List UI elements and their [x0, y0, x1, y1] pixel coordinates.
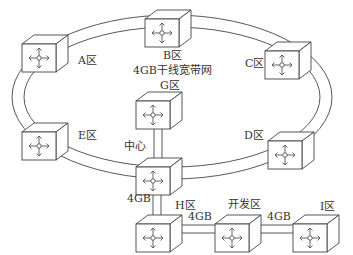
label-g: G区: [160, 80, 180, 92]
router-e-icon: [22, 123, 68, 160]
router-b-icon: [145, 10, 191, 47]
router-dev-icon: [215, 215, 261, 252]
router-c-icon: [265, 42, 311, 79]
label-link-dev-i: 4GB: [267, 211, 291, 223]
label-a: A区: [78, 55, 97, 67]
label-e: E区: [78, 130, 97, 142]
label-c: C区: [245, 58, 264, 70]
label-dev: 开发区: [228, 199, 261, 211]
label-ring: 4GB干线宽带网: [133, 65, 212, 77]
router-g-icon: [136, 92, 182, 129]
link-g-center: [154, 127, 162, 160]
label-i: I区: [320, 201, 335, 213]
router-center-icon: [136, 158, 182, 195]
label-center: 中心: [124, 141, 146, 153]
label-b: B区: [163, 50, 182, 62]
router-i-icon: [293, 215, 339, 252]
link-dev-i: [261, 225, 293, 233]
network-diagram: [0, 0, 353, 255]
link-h-dev: [182, 225, 215, 233]
router-h-icon: [136, 215, 182, 252]
label-link-center-h: 4GB: [127, 193, 151, 205]
label-link-h-dev: 4GB: [188, 211, 212, 223]
router-a-icon: [22, 35, 68, 72]
router-d-icon: [268, 132, 314, 169]
label-d: D区: [244, 130, 264, 142]
